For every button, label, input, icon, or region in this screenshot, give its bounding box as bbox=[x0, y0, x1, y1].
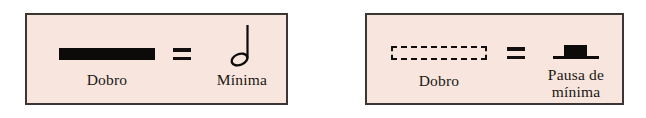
left-panel-minima-group: Mínima bbox=[202, 23, 282, 88]
right-panel-dobro-group: Dobro bbox=[384, 40, 494, 89]
left-panel-dobro-label: Dobro bbox=[87, 71, 128, 88]
right-panel-dobro-label: Dobro bbox=[419, 72, 460, 89]
solid-duration-bar-icon bbox=[59, 41, 155, 67]
panel-right-content: Dobro Pausa de mínima bbox=[367, 15, 622, 103]
panel-dobro-equals-minima: Dobro Míni bbox=[25, 13, 288, 105]
right-panel-pausa-group: Pausa de mínima bbox=[534, 40, 618, 100]
half-note-icon bbox=[225, 23, 259, 69]
right-panel-pausa-label-line2: mínima bbox=[552, 83, 601, 100]
panel-left-content: Dobro Míni bbox=[27, 15, 286, 103]
left-panel-minima-label: Mínima bbox=[217, 71, 267, 88]
dashed-duration-bar-icon bbox=[391, 40, 487, 66]
panel-dobro-equals-pausa-de-minima: Dobro Pausa de mínima bbox=[365, 13, 624, 105]
left-panel-dobro-group: Dobro bbox=[52, 41, 162, 88]
half-rest-icon bbox=[553, 40, 599, 64]
equals-sign-right-panel bbox=[507, 47, 525, 59]
music-notation-equivalence-figure: Dobro Míni bbox=[0, 0, 646, 118]
right-panel-pausa-label-line1: Pausa de bbox=[548, 66, 604, 83]
equals-sign-left-panel bbox=[173, 48, 191, 60]
